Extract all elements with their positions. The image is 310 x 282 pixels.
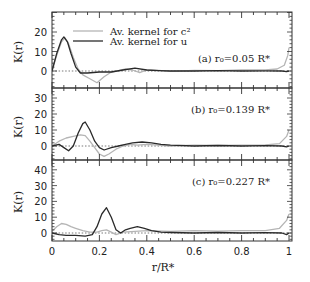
panel-frame (52, 160, 292, 241)
panel-frame (52, 88, 292, 160)
x-tick-label: 0.4 (139, 246, 155, 257)
y-axis-label-a: K(r) (12, 41, 25, 63)
y-axis-label-b: K(r) (12, 116, 25, 138)
panel-c: 010203040(c) r₀=0.227 R* (34, 160, 292, 241)
y-tick-label: 10 (34, 125, 47, 136)
y-tick-label: 20 (34, 196, 47, 207)
kernel-chart: 01020(a) r₀=0.05 R*0102030(b) r₀=0.139 R… (0, 0, 310, 282)
x-tick-label: 0.8 (234, 246, 250, 257)
y-tick-label: 30 (34, 181, 47, 192)
legend: Av. kernel for c² Av. kernel for u (73, 26, 190, 47)
y-tick-label: 20 (34, 27, 47, 38)
panel-frame (52, 12, 292, 88)
y-tick-label: 30 (34, 93, 47, 104)
legend-label-u: Av. kernel for u (109, 36, 188, 47)
x-tick-label: 1 (286, 246, 292, 257)
x-tick-label: 0 (49, 246, 55, 257)
y-tick-label: 20 (34, 109, 47, 120)
panel-b: 0102030(b) r₀=0.139 R* (34, 88, 292, 160)
y-tick-label: 0 (41, 141, 47, 152)
y-tick-label: 10 (34, 212, 47, 223)
panel-annotation-c: (c) r₀=0.227 R* (192, 176, 270, 187)
y-tick-label: 0 (41, 66, 47, 77)
y-axis-label-c: K(r) (12, 191, 25, 213)
y-tick-label: 40 (34, 165, 47, 176)
panel-annotation-a: (a) r₀=0.05 R* (198, 53, 270, 64)
y-tick-label: 10 (34, 47, 47, 58)
series-c2 (52, 214, 289, 235)
x-axis-tick-labels: 00.20.40.60.81 (49, 246, 292, 257)
series-c2 (52, 130, 289, 156)
x-tick-label: 0.6 (186, 246, 202, 257)
panel-annotation-b: (b) r₀=0.139 R* (191, 104, 270, 115)
x-tick-label: 0.2 (91, 246, 107, 257)
y-tick-label: 0 (41, 228, 47, 239)
x-axis-label: r/R* (152, 261, 175, 274)
panel-a: 01020(a) r₀=0.05 R* (34, 12, 292, 88)
